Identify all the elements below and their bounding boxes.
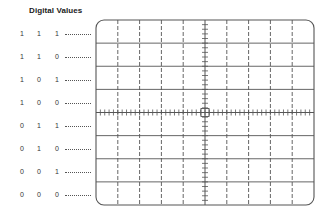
oscilloscope-graticule	[0, 0, 331, 219]
graticule-grid	[96, 20, 314, 205]
